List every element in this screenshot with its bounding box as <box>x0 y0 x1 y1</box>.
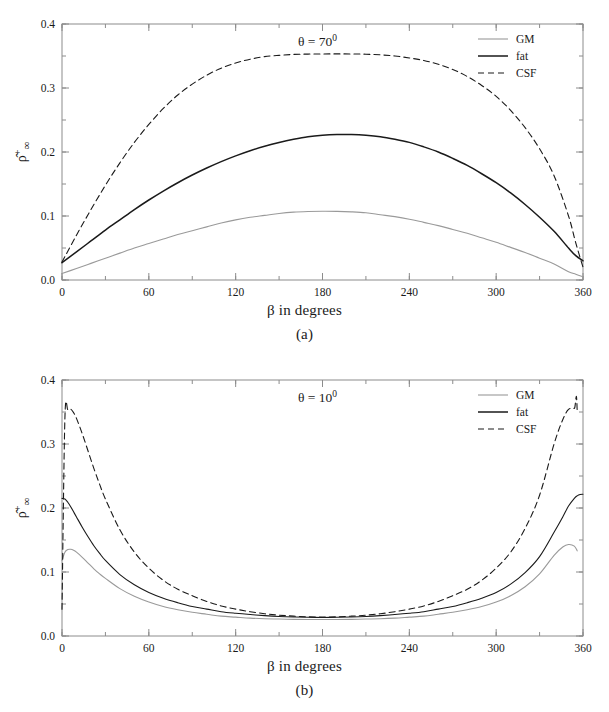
subscript-infinity: ∞ <box>20 142 32 150</box>
theta-annotation-text: θ = 700 <box>298 33 337 49</box>
x-tick-label: 0 <box>59 642 65 654</box>
legend: GMfatCSF <box>478 33 536 79</box>
x-tick-label: 300 <box>488 286 506 298</box>
x-axis-label-a: β in degrees <box>0 302 609 319</box>
x-tick-label: 120 <box>227 286 245 298</box>
subcaption-a: (a) <box>0 326 609 343</box>
x-tick-label: 60 <box>143 286 155 298</box>
legend-label-fat: fat <box>516 406 529 418</box>
legend: GMfatCSF <box>478 389 536 435</box>
legend-label-fat: fat <box>516 50 529 62</box>
minor-ticks <box>62 380 583 636</box>
series-line-gm <box>62 211 583 277</box>
chart-panel-a: 0601201802403003600.00.10.20.30.4ρ̂+∞θ =… <box>0 0 609 356</box>
x-tick-label: 360 <box>574 286 592 298</box>
y-tick-label: 0.3 <box>41 82 56 94</box>
series-line-gm <box>62 544 577 619</box>
subcaption-b: (b) <box>0 682 609 699</box>
theta-annotation: θ = 100 <box>298 389 337 405</box>
theta-value: θ = 70 <box>298 34 333 49</box>
y-tick-label: 0.3 <box>41 438 56 450</box>
theta-value: θ = 10 <box>298 390 333 405</box>
y-tick-label: 0.1 <box>41 210 56 222</box>
series-line-csf <box>62 54 583 267</box>
degree-superscript: 0 <box>332 389 337 399</box>
chart-panel-b: 0601201802403003600.00.10.20.30.4ρ̂+∞θ =… <box>0 356 609 712</box>
x-tick-label: 240 <box>401 286 419 298</box>
figure-container: 0601201802403003600.00.10.20.30.4ρ̂+∞θ =… <box>0 0 609 712</box>
plot-frame <box>62 380 583 636</box>
y-tick-label: 0.1 <box>41 566 56 578</box>
y-tick-label: 0.2 <box>41 146 56 158</box>
theta-annotation-text: θ = 100 <box>298 389 337 405</box>
y-axis-label: ρ̂+∞ <box>12 498 32 519</box>
y-tick-label: 0.4 <box>41 374 56 386</box>
y-tick-label: 0.2 <box>41 502 56 514</box>
x-tick-label: 300 <box>488 642 506 654</box>
x-tick-label: 360 <box>574 642 592 654</box>
x-tick-label: 180 <box>314 642 332 654</box>
x-tick-label: 180 <box>314 286 332 298</box>
degree-superscript: 0 <box>332 33 337 43</box>
legend-label-csf: CSF <box>516 423 536 435</box>
x-tick-label: 0 <box>59 286 65 298</box>
x-tick-label: 120 <box>227 642 245 654</box>
x-tick-label: 60 <box>143 642 155 654</box>
y-axis-label: ρ̂+∞ <box>12 142 32 163</box>
y-tick-label: 0.0 <box>41 630 56 642</box>
plot-frame <box>62 24 583 280</box>
series-line-fat <box>62 135 583 263</box>
legend-label-gm: GM <box>516 33 535 45</box>
y-tick-label: 0.0 <box>41 274 56 286</box>
legend-label-csf: CSF <box>516 67 536 79</box>
y-tick-label: 0.4 <box>41 18 56 30</box>
theta-annotation: θ = 700 <box>298 33 337 49</box>
x-axis-label-b: β in degrees <box>0 658 609 675</box>
major-ticks: 0601201802403003600.00.10.20.30.4 <box>41 374 592 654</box>
subscript-infinity: ∞ <box>20 498 32 506</box>
legend-label-gm: GM <box>516 389 535 401</box>
x-tick-label: 240 <box>401 642 419 654</box>
y-axis-label-text: ρ̂+∞ <box>12 498 32 519</box>
y-axis-label-text: ρ̂+∞ <box>12 142 32 163</box>
minor-ticks <box>62 24 583 280</box>
